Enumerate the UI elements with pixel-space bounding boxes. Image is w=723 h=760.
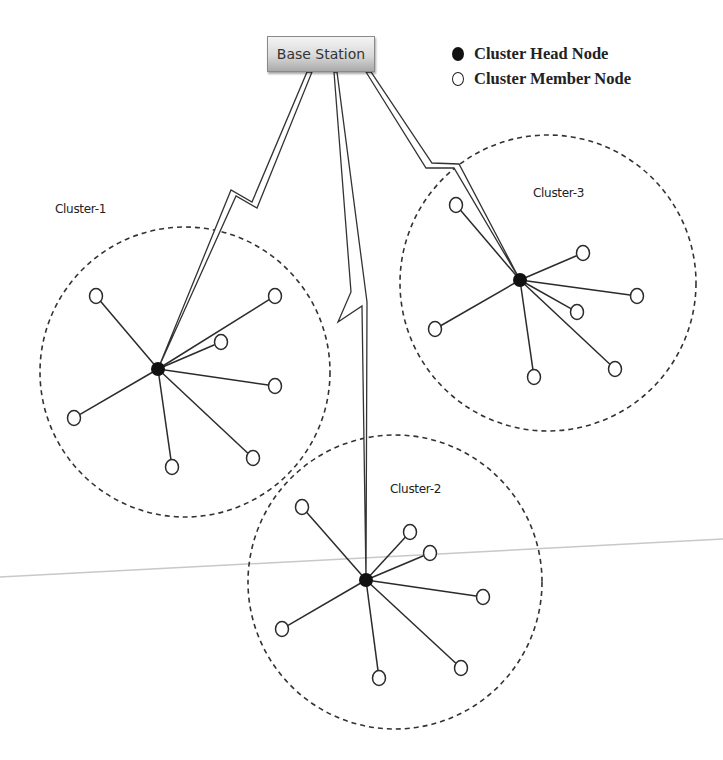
cluster-member-node bbox=[404, 525, 417, 540]
cluster-member-node bbox=[90, 289, 103, 304]
cluster-3-boundary bbox=[400, 135, 696, 431]
network-diagram bbox=[0, 0, 723, 760]
cluster-member-node bbox=[477, 590, 490, 605]
link-bolt-cluster-3 bbox=[366, 72, 520, 280]
member-link bbox=[158, 369, 248, 453]
member-link bbox=[520, 280, 630, 295]
member-link bbox=[288, 580, 366, 625]
legend-label: Cluster Head Node bbox=[474, 44, 608, 64]
cluster-2-boundary bbox=[248, 435, 542, 729]
cluster-member-node bbox=[247, 451, 260, 466]
cluster-member-node bbox=[528, 370, 541, 385]
cluster-3-head-node bbox=[513, 273, 527, 287]
cluster-boundaries bbox=[40, 135, 696, 729]
cluster-member-node bbox=[166, 460, 179, 475]
cluster-member-node bbox=[571, 305, 584, 320]
cluster-member-node bbox=[577, 246, 590, 261]
member-link bbox=[158, 369, 268, 385]
link-bolt-cluster-1 bbox=[158, 72, 312, 369]
base-station-box: Base Station bbox=[267, 36, 375, 72]
cluster-member-node bbox=[424, 546, 437, 561]
legend-item-cluster-head: Cluster Head Node bbox=[452, 41, 631, 66]
member-link bbox=[520, 280, 610, 364]
legend-item-cluster-member: Cluster Member Node bbox=[452, 66, 631, 91]
cluster-member-node bbox=[215, 335, 228, 350]
cluster-member-node bbox=[631, 289, 644, 304]
base-station-label: Base Station bbox=[277, 46, 365, 62]
cluster-member-node bbox=[68, 411, 81, 426]
cluster-member-node bbox=[269, 379, 282, 394]
member-link bbox=[366, 580, 456, 663]
filled-circle-icon bbox=[452, 47, 464, 61]
member-link bbox=[307, 512, 366, 580]
base-station-links bbox=[158, 72, 520, 580]
member-link bbox=[158, 300, 269, 369]
cluster-1-head-node bbox=[151, 362, 165, 376]
member-link bbox=[158, 369, 171, 460]
member-link bbox=[80, 369, 158, 414]
cluster-2-head-node bbox=[359, 573, 373, 587]
cluster-member-node bbox=[450, 198, 463, 213]
divider-line bbox=[0, 539, 723, 577]
cluster-member-node bbox=[609, 362, 622, 377]
legend: Cluster Head Node Cluster Member Node bbox=[452, 41, 631, 91]
cluster-member-node bbox=[429, 322, 442, 337]
hollow-circle-icon bbox=[452, 72, 464, 86]
cluster-member-node bbox=[296, 500, 309, 515]
cluster-member-node bbox=[455, 661, 468, 676]
member-link bbox=[441, 280, 520, 326]
member-link bbox=[366, 556, 424, 580]
cluster-member-node bbox=[276, 622, 289, 637]
member-link bbox=[461, 210, 520, 280]
member-link bbox=[101, 301, 158, 369]
cluster-2-label: Cluster-2 bbox=[390, 482, 441, 496]
cluster-1-boundary bbox=[40, 227, 330, 517]
member-link bbox=[366, 537, 405, 580]
legend-label: Cluster Member Node bbox=[474, 69, 631, 89]
member-link bbox=[366, 580, 476, 596]
link-bolt-cluster-2 bbox=[334, 72, 367, 580]
cluster-3-label: Cluster-3 bbox=[533, 186, 584, 200]
member-link bbox=[366, 580, 378, 671]
cluster-member-node bbox=[373, 671, 386, 686]
member-link bbox=[520, 256, 577, 280]
cluster-member-node bbox=[269, 289, 282, 304]
member-link bbox=[520, 280, 533, 370]
cluster-1-label: Cluster-1 bbox=[55, 202, 106, 216]
